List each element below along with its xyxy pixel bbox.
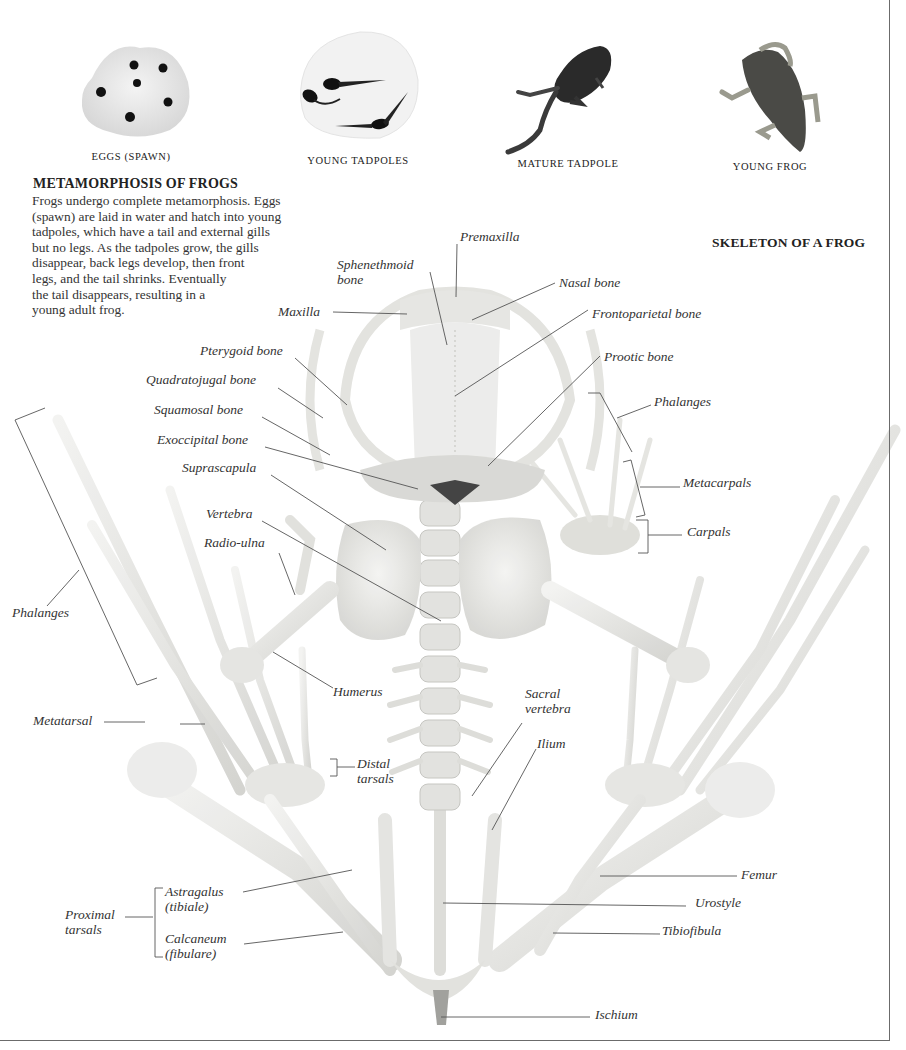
label-proximal-tarsals: Proximal tarsals	[65, 907, 115, 937]
label-urostyle: Urostyle	[695, 895, 741, 910]
label-maxilla: Maxilla	[278, 304, 320, 319]
description-line: Frogs undergo complete metamorphosis. Eg…	[32, 193, 372, 209]
diagram-page: EGGS (SPAWN) YOUNG TADPOLES MATURE TADPO…	[0, 0, 906, 1050]
metamorphosis-title: METAMORPHOSIS OF FROGS	[33, 176, 238, 192]
frog-spawn-image	[82, 47, 190, 137]
description-line: disappear, back legs develop, then front	[32, 255, 372, 271]
label-femur: Femur	[741, 867, 777, 882]
description-line: tadpoles, which have a tail and external…	[32, 224, 372, 240]
label-premaxilla: Premaxilla	[460, 229, 519, 244]
frame-right-border	[889, 0, 890, 1041]
mature-tadpole-image	[508, 46, 611, 152]
stage-caption-eggs: EGGS (SPAWN)	[41, 151, 221, 162]
label-ischium: Ischium	[595, 1007, 638, 1022]
stage-caption-young-tadpoles: YOUNG TADPOLES	[268, 155, 448, 166]
label-distal-tarsals: Distal tarsals	[357, 756, 394, 786]
young-tadpoles-image	[300, 32, 418, 138]
stage-caption-mature-tadpole: MATURE TADPOLE	[478, 158, 658, 169]
label-pterygoid-bone: Pterygoid bone	[200, 343, 283, 358]
label-quadratojugal-bone: Quadratojugal bone	[146, 372, 256, 387]
label-metacarpals: Metacarpals	[683, 475, 751, 490]
young-frog-image	[722, 44, 818, 152]
label-sacral-vertebra: Sacral vertebra	[525, 686, 571, 716]
description-line: (spawn) are laid in water and hatch into…	[32, 209, 372, 225]
label-metatarsal: Metatarsal	[33, 713, 92, 728]
label-phalanges-hindlimb: Phalanges	[12, 605, 69, 620]
label-squamosal-bone: Squamosal bone	[154, 402, 243, 417]
label-prootic-bone: Prootic bone	[604, 349, 674, 364]
label-tibiofibula: Tibiofibula	[662, 923, 721, 938]
frame-bottom-border	[0, 1040, 890, 1041]
label-ilium: Ilium	[537, 736, 566, 751]
stage-caption-young-frog: YOUNG FROG	[680, 161, 860, 172]
label-suprascapula: Suprascapula	[182, 460, 256, 475]
label-frontoparietal-bone: Frontoparietal bone	[592, 306, 701, 321]
skeleton-drawing	[58, 290, 895, 1025]
description-line: legs, and the tail shrinks. Eventually	[32, 271, 372, 287]
label-radio-ulna: Radio-ulna	[204, 535, 265, 550]
description-line: the tail disappears, resulting in a	[32, 287, 372, 303]
description-line: but no legs. As the tadpoles grow, the g…	[32, 240, 372, 256]
metamorphosis-description: Frogs undergo complete metamorphosis. Eg…	[32, 193, 372, 318]
label-calcaneum: Calcaneum (fibulare)	[165, 931, 227, 961]
label-phalanges-forelimb: Phalanges	[654, 394, 711, 409]
label-nasal-bone: Nasal bone	[559, 275, 620, 290]
label-humerus: Humerus	[333, 684, 383, 699]
description-line: young adult frog.	[32, 302, 372, 318]
label-sphenethmoid-bone: Sphenethmoid bone	[337, 257, 414, 287]
label-exoccipital-bone: Exoccipital bone	[157, 432, 248, 447]
skeleton-title: SKELETON OF A FROG	[712, 235, 865, 251]
label-vertebra: Vertebra	[206, 506, 253, 521]
label-astragalus: Astragalus (tibiale)	[165, 884, 224, 914]
label-carpals: Carpals	[687, 524, 731, 539]
